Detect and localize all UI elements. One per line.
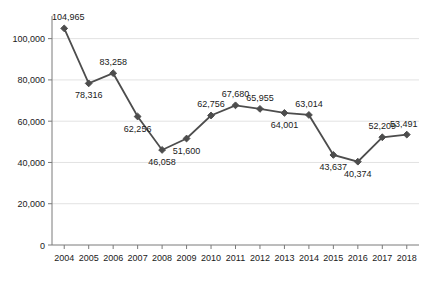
- y-axis-tick-labels: 020,00040,00060,00080,000100,000: [12, 34, 52, 250]
- x-axis-tick-label: 2004: [54, 253, 74, 263]
- line-chart: 020,00040,00060,00080,000100,000 2004200…: [0, 0, 427, 282]
- data-marker: [257, 105, 264, 112]
- data-point-label: 83,258: [99, 57, 127, 67]
- x-axis-tick-label: 2016: [348, 253, 368, 263]
- y-axis-tick-label: 100,000: [12, 34, 45, 44]
- data-marker: [61, 25, 68, 32]
- data-point-label: 78,316: [75, 90, 103, 100]
- data-point-label: 62,756: [197, 99, 225, 109]
- y-axis-tick-label: 80,000: [17, 75, 45, 85]
- x-axis-tick-label: 2011: [226, 253, 245, 263]
- data-point-label: 64,001: [271, 120, 299, 130]
- x-axis-tick-label: 2013: [274, 253, 294, 263]
- data-point-label: 104,965: [52, 12, 85, 22]
- data-point-label: 62,256: [124, 124, 152, 134]
- x-axis-tick-labels: 2004200520062007200820092010201120122013…: [54, 245, 417, 263]
- data-point-label: 53,491: [390, 119, 418, 129]
- y-axis-tick-label: 20,000: [17, 199, 45, 209]
- x-axis-tick-label: 2008: [152, 253, 172, 263]
- x-axis-tick-label: 2017: [372, 253, 392, 263]
- data-marker: [85, 80, 92, 87]
- x-axis-tick-label: 2012: [250, 253, 270, 263]
- data-marker: [110, 70, 117, 77]
- axes: [52, 16, 419, 245]
- y-axis-tick-label: 60,000: [17, 117, 45, 127]
- data-point-label: 46,058: [148, 157, 176, 167]
- data-point-label: 67,680: [222, 89, 250, 99]
- x-axis-tick-label: 2018: [397, 253, 417, 263]
- data-marker: [281, 110, 288, 117]
- x-axis-tick-label: 2005: [79, 253, 99, 263]
- data-point-label: 51,600: [173, 146, 201, 156]
- x-axis-tick-label: 2007: [128, 253, 148, 263]
- x-axis-tick-label: 2009: [177, 253, 197, 263]
- data-point-label: 43,637: [320, 162, 348, 172]
- x-axis-tick-label: 2006: [103, 253, 123, 263]
- data-point-label: 65,955: [246, 93, 274, 103]
- data-point-labels: 104,96578,31683,25862,25646,05851,60062,…: [52, 12, 418, 178]
- y-axis-tick-label: 0: [40, 241, 45, 251]
- x-axis-tick-label: 2014: [299, 253, 319, 263]
- data-marker: [403, 131, 410, 138]
- x-axis-tick-label: 2010: [201, 253, 221, 263]
- x-axis-tick-label: 2015: [323, 253, 343, 263]
- y-axis-tick-label: 40,000: [17, 158, 45, 168]
- chart-canvas: 020,00040,00060,00080,000100,000 2004200…: [0, 0, 427, 282]
- data-point-label: 63,014: [295, 99, 323, 109]
- data-point-label: 40,374: [344, 169, 372, 179]
- data-marker: [232, 102, 239, 109]
